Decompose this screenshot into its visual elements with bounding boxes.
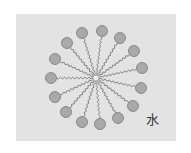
head (115, 33, 126, 44)
head (136, 83, 147, 94)
head (50, 54, 61, 65)
tail (60, 61, 93, 76)
head (113, 113, 124, 124)
head (128, 101, 139, 112)
tail (96, 81, 101, 119)
tail (98, 54, 129, 76)
head (137, 63, 148, 74)
tail (57, 77, 94, 79)
head (95, 119, 106, 130)
head (77, 28, 88, 39)
head (129, 46, 140, 57)
head (46, 73, 57, 84)
head (97, 26, 108, 37)
head (77, 117, 88, 128)
micelle-core (93, 75, 99, 81)
head (61, 107, 72, 118)
tail (99, 69, 137, 77)
head (50, 92, 61, 103)
water-label: 水 (146, 113, 159, 126)
tail (84, 81, 96, 117)
tail (98, 43, 118, 76)
head (62, 38, 73, 49)
micelle-diagram (0, 0, 191, 153)
